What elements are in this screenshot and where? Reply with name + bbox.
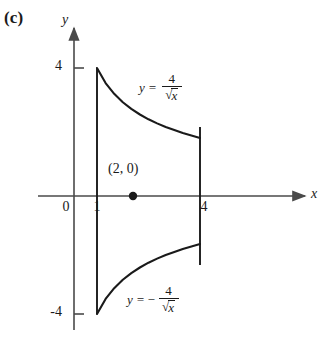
equation-upper-lhs: y = bbox=[139, 81, 157, 94]
equation-label-upper-curve: y = 4 √ x bbox=[139, 72, 183, 104]
x-axis-label: x bbox=[311, 186, 317, 202]
equation-upper-fraction: 4 √ x bbox=[162, 72, 182, 104]
equation-lower-sign: − bbox=[147, 293, 156, 306]
figure-container: (c) y x 4 -4 0 1 4 (2, bbox=[0, 0, 324, 342]
equation-upper-denominator: √ x bbox=[162, 87, 181, 104]
x-tick-label-0: 0 bbox=[58, 199, 74, 215]
y-axis-label: y bbox=[62, 12, 68, 28]
radical-icon: √ x bbox=[165, 88, 178, 104]
y-tick-label-neg4: -4 bbox=[34, 304, 62, 320]
point-coordinate-label: (2, 0) bbox=[108, 161, 138, 177]
equation-lower-fraction: 4 √ x bbox=[159, 284, 179, 316]
radical-icon: √ x bbox=[162, 300, 175, 316]
equation-lower-radicand: x bbox=[168, 300, 175, 316]
x-tick-label-4: 4 bbox=[196, 199, 212, 215]
equation-lower-numerator: 4 bbox=[162, 284, 175, 298]
equation-upper-radicand: x bbox=[171, 88, 178, 104]
equation-upper-numerator: 4 bbox=[166, 72, 179, 86]
point-marker-2-0 bbox=[129, 192, 137, 200]
equation-lower-lhs: y = bbox=[127, 293, 145, 306]
y-tick-label-4: 4 bbox=[44, 58, 62, 74]
equation-label-lower-curve: y = − 4 √ x bbox=[127, 284, 180, 316]
x-tick-label-1: 1 bbox=[89, 199, 105, 215]
equation-lower-denominator: √ x bbox=[159, 299, 178, 316]
